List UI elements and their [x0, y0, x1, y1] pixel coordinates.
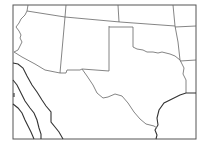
texas-panhandle-border	[109, 27, 180, 60]
baja-coast-2	[13, 80, 41, 139]
gulf-coast	[155, 93, 196, 139]
baja-coast-1	[13, 63, 63, 139]
arizona-mexico-border	[14, 52, 60, 73]
outline-map	[0, 0, 207, 155]
rio-grande	[82, 69, 157, 128]
arizona-newmexico-border	[60, 5, 66, 73]
map-canvas	[0, 0, 207, 155]
kansas-missouri-border	[175, 26, 196, 27]
colorado-newmexico-border	[65, 17, 175, 26]
colorado-kansas-border	[118, 5, 119, 22]
texas-louisiana-border	[180, 60, 186, 93]
arkansas-louisiana-border	[180, 60, 196, 61]
map-frame	[13, 5, 196, 139]
oklahoma-east-border	[173, 5, 180, 60]
arizona-west-border	[14, 5, 28, 52]
utah-arizona-border	[27, 11, 65, 17]
